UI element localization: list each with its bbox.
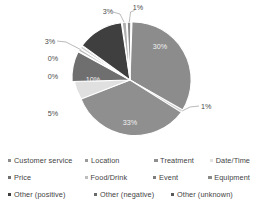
legend-row: Price Food/Drink Event Equipment (8, 169, 250, 186)
legend-swatch-icon (85, 176, 88, 179)
slice-label-customer-service: 30% (153, 42, 168, 51)
slice-label-other-negative: 1% (133, 3, 144, 12)
slice-label-treatment: 33% (123, 118, 138, 127)
legend-swatch-icon (210, 159, 213, 162)
legend-item-location[interactable]: Location (85, 157, 154, 164)
legend-item-label: Equipment (214, 174, 250, 181)
leader-line-other-negative (129, 11, 134, 23)
leader-line-equipment (57, 41, 81, 50)
legend-item-equipment[interactable]: Equipment (208, 174, 250, 181)
legend-swatch-icon (154, 159, 157, 162)
legend-item-label: Event (159, 174, 178, 181)
legend-item-other-positive[interactable]: Other (positive) (8, 191, 94, 198)
slice-label-date-time: 5% (48, 109, 59, 118)
legend-swatch-icon (8, 176, 11, 179)
legend-item-date-time[interactable]: Date/Time (210, 157, 250, 164)
chart-legend: Customer service Location Treatment Date… (0, 148, 256, 207)
legend-item-label: Customer service (14, 157, 72, 164)
pie-svg: 30% 1% 33% 5% 10% 0% 0% 3% 3% 1% (0, 0, 256, 148)
legend-item-other-negative[interactable]: Other (negative) (94, 191, 171, 198)
legend-item-label: Other (unknown) (177, 191, 233, 198)
legend-item-label: Date/Time (216, 157, 250, 164)
legend-item-food-drink[interactable]: Food/Drink (85, 174, 154, 181)
legend-item-label: Other (negative) (100, 191, 154, 198)
slice-label-price: 10% (86, 75, 101, 84)
legend-item-price[interactable]: Price (8, 174, 85, 181)
legend-row: Other (positive) Other (negative) Other … (8, 186, 250, 203)
legend-swatch-icon (94, 193, 97, 196)
legend-swatch-icon (85, 159, 88, 162)
legend-swatch-icon (171, 193, 174, 196)
legend-swatch-icon (153, 176, 156, 179)
slice-label-event: 0% (48, 54, 59, 63)
legend-item-treatment[interactable]: Treatment (154, 157, 210, 164)
legend-item-label: Price (14, 174, 31, 181)
legend-swatch-icon (8, 159, 11, 162)
legend-item-label: Location (91, 157, 119, 164)
slice-label-food-drink: 0% (48, 72, 59, 81)
legend-item-label: Food/Drink (91, 174, 128, 181)
legend-item-other-unknown[interactable]: Other (unknown) (171, 191, 233, 198)
slice-label-equipment: 3% (45, 37, 56, 46)
legend-row: Customer service Location Treatment Date… (8, 152, 250, 169)
pie-chart-figure: 30% 1% 33% 5% 10% 0% 0% 3% 3% 1% Custome… (0, 0, 256, 207)
pie-plot-area: 30% 1% 33% 5% 10% 0% 0% 3% 3% 1% (0, 0, 256, 148)
legend-item-event[interactable]: Event (153, 174, 208, 181)
legend-swatch-icon (208, 176, 211, 179)
legend-item-label: Other (positive) (14, 191, 65, 198)
slice-label-location: 1% (201, 102, 212, 111)
legend-item-label: Treatment (160, 157, 194, 164)
legend-swatch-icon (8, 193, 11, 196)
leader-line-other-positive (113, 12, 124, 22)
legend-item-customer-service[interactable]: Customer service (8, 157, 85, 164)
slice-label-other-positive: 3% (103, 7, 114, 16)
